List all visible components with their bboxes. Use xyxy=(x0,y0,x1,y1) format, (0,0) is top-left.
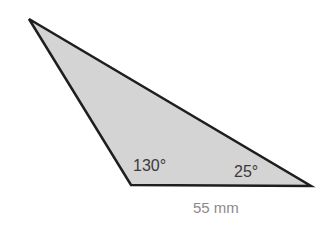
angle-label-bottom-right: 25° xyxy=(234,163,258,181)
side-label-bottom: 55 mm xyxy=(193,199,239,216)
triangle-shape xyxy=(0,0,335,235)
angle-label-bottom-left: 130° xyxy=(133,157,166,175)
triangle-diagram: 130° 25° 55 mm xyxy=(0,0,335,235)
